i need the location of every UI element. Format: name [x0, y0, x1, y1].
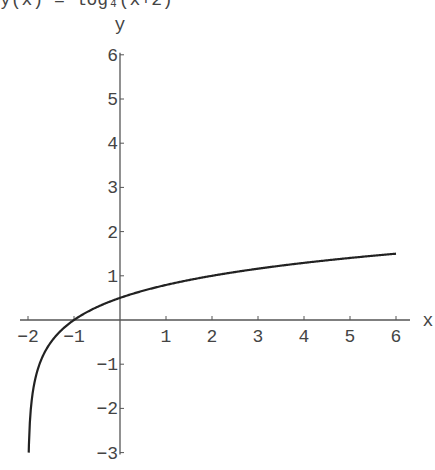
y-tick-label: 2: [107, 223, 118, 243]
y-tick-label: 3: [107, 178, 118, 198]
function-plot: −2−1123456−3−2−1123456xy: [0, 0, 435, 470]
x-tick-label: 6: [391, 327, 402, 347]
y-tick-label: −3: [96, 444, 118, 464]
curve: [29, 254, 396, 453]
x-axis-label: x: [423, 311, 434, 331]
y-tick-label: 5: [107, 90, 118, 110]
y-tick-label: 4: [107, 134, 118, 154]
y-tick-label: −2: [96, 399, 118, 419]
x-tick-label: 4: [299, 327, 310, 347]
y-tick-label: 1: [107, 267, 118, 287]
x-tick-label: 5: [345, 327, 356, 347]
x-tick-label: 3: [253, 327, 264, 347]
x-tick-label: −2: [17, 327, 39, 347]
axes: −2−1123456−3−2−1123456xy: [17, 15, 433, 464]
x-tick-label: −1: [63, 327, 85, 347]
y-axis-label: y: [115, 15, 126, 35]
y-tick-label: −1: [96, 355, 118, 375]
x-tick-label: 2: [207, 327, 218, 347]
y-tick-label: 6: [107, 46, 118, 66]
x-tick-label: 1: [161, 327, 172, 347]
